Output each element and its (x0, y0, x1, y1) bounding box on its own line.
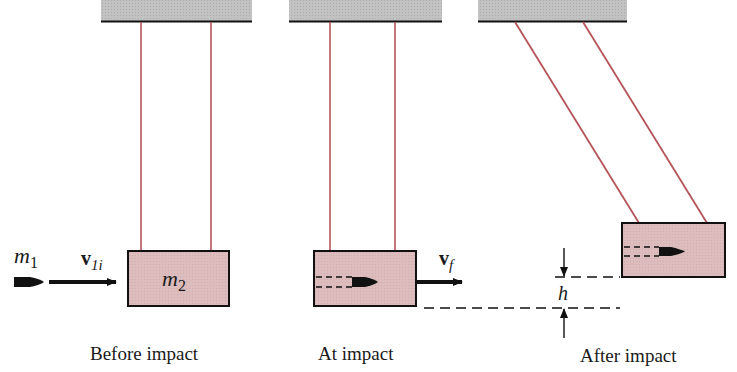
ceiling-support (101, 0, 252, 22)
bullet-icon (14, 277, 44, 287)
ceiling-support (289, 0, 442, 22)
final-velocity-label: vf (439, 247, 455, 273)
ceiling-support (478, 0, 627, 22)
bullet-mass-label: m1 (14, 243, 38, 271)
panel-at-impact: vf At impact (289, 0, 462, 364)
string-left (515, 22, 639, 223)
ballistic-pendulum-diagram: m2 m1 v1i Before impact vf At impact (0, 0, 737, 372)
caption-before-impact: Before impact (90, 343, 199, 364)
caption-after-impact: After impact (580, 345, 677, 366)
initial-velocity-label: v1i (81, 247, 103, 273)
panel-before-impact: m2 m1 v1i Before impact (14, 0, 252, 364)
height-label: h (558, 282, 568, 304)
panel-after-impact: h After impact (424, 0, 725, 366)
caption-at-impact: At impact (318, 343, 394, 364)
string-right (583, 22, 707, 223)
